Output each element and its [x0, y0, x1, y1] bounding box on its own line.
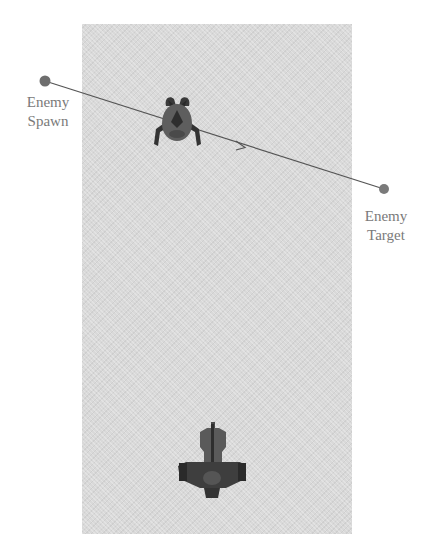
enemy-ship-icon [154, 97, 201, 146]
path-arrow-icon [236, 141, 245, 150]
enemy-target-label-line1: Enemy [356, 207, 416, 226]
spawn-point-marker [40, 76, 51, 87]
enemy-target-label: Enemy Target [356, 207, 416, 245]
target-point-marker [379, 184, 389, 194]
enemy-spawn-label-line2: Spawn [18, 112, 78, 131]
enemy-spawn-label: Enemy Spawn [18, 93, 78, 131]
diagram-overlay [0, 0, 428, 552]
enemy-path-line [45, 81, 384, 189]
enemy-spawn-label-line1: Enemy [18, 93, 78, 112]
player-ship-icon [178, 422, 246, 498]
enemy-target-label-line2: Target [356, 226, 416, 245]
game-diagram: Enemy Spawn Enemy Target [0, 0, 428, 552]
